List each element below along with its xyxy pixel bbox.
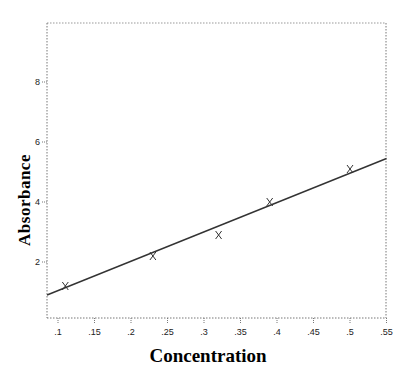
y-tick-label: 2 — [35, 257, 40, 267]
x-tick-label: .15 — [88, 327, 101, 337]
fitted-line — [47, 159, 386, 296]
y-tick-label: 4 — [35, 197, 40, 207]
x-tick-label: .4 — [273, 327, 281, 337]
x-tick-label: .25 — [161, 327, 174, 337]
x-marker-icon — [150, 252, 156, 260]
x-marker-icon — [347, 165, 353, 173]
x-tick-label: .55 — [380, 327, 393, 337]
x-marker-icon — [216, 231, 222, 239]
absorbance-vs-concentration-chart: .1.15.2.25.3.35.4.45.5.55 2468 Concentra… — [0, 0, 411, 389]
y-axis-title: Absorbance — [15, 154, 34, 246]
regression-line — [47, 159, 386, 296]
x-axis-ticks: .1.15.2.25.3.35.4.45.5.55 — [54, 318, 393, 337]
x-tick-label: .1 — [54, 327, 62, 337]
y-tick-label: 8 — [35, 77, 40, 87]
plot-frame — [47, 23, 386, 318]
y-axis-ticks: 2468 — [35, 77, 47, 267]
x-axis-title: Concentration — [149, 345, 267, 366]
x-tick-label: .5 — [346, 327, 354, 337]
x-marker-icon — [62, 282, 68, 290]
x-tick-label: .45 — [307, 327, 320, 337]
x-tick-label: .2 — [127, 327, 135, 337]
y-tick-label: 6 — [35, 137, 40, 147]
x-tick-label: .35 — [234, 327, 247, 337]
x-tick-label: .3 — [200, 327, 208, 337]
